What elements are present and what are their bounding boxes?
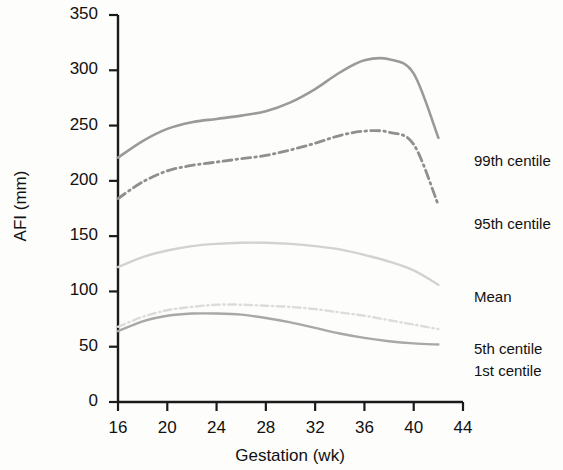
legend-item-0: 99th centile: [474, 152, 551, 169]
y-tick-label: 200: [38, 170, 98, 190]
y-tick-label: 100: [38, 280, 98, 300]
series-line-0: [118, 58, 438, 158]
y-tick-label: 250: [38, 115, 98, 135]
x-tick-label: 40: [394, 418, 434, 438]
y-tick-label: 0: [38, 391, 98, 411]
x-axis-title: Gestation (wk): [160, 446, 420, 466]
legend-item-3: 5th centile: [474, 340, 542, 357]
x-tick-label: 36: [344, 418, 384, 438]
y-tick-label: 150: [38, 225, 98, 245]
series-line-4: [118, 313, 438, 344]
x-tick-label: 20: [147, 418, 187, 438]
series-curves: [118, 58, 438, 344]
y-tick-label: 300: [38, 59, 98, 79]
y-tick-label: 50: [38, 336, 98, 356]
afi-gestation-chart: 050100150200250300350 1620242832364044 A…: [0, 0, 563, 470]
legend-item-1: 95th centile: [474, 215, 551, 232]
y-axis-title: AFI (mm): [11, 141, 31, 271]
x-tick-label: 24: [197, 418, 237, 438]
tick-marks: [109, 15, 463, 411]
x-tick-label: 28: [246, 418, 286, 438]
y-tick-label: 350: [38, 4, 98, 24]
x-tick-label: 32: [295, 418, 335, 438]
legend-item-2: Mean: [474, 288, 512, 305]
series-line-2: [118, 243, 438, 285]
x-tick-label: 44: [443, 418, 483, 438]
series-line-1: [118, 131, 438, 206]
legend-item-4: 1st centile: [474, 362, 542, 379]
x-tick-label: 16: [98, 418, 138, 438]
